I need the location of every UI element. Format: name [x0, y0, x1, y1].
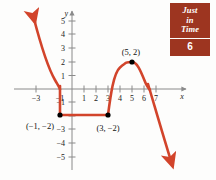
- x-tick-label-4: 4: [118, 94, 122, 103]
- x-tick-label-2: 2: [94, 94, 98, 103]
- point-label-3-neg2: (3, −2): [96, 123, 119, 133]
- jit-line-3: Time: [172, 25, 208, 35]
- x-tick-label-6: 6: [142, 94, 146, 103]
- point-label-neg1-neg2: (−1, −2): [26, 121, 54, 131]
- point-dot-3-neg2: [105, 112, 110, 117]
- y-tick-label-neg3: −3: [56, 125, 65, 134]
- x-tick-label-5: 5: [130, 94, 134, 103]
- y-axis-label: y: [63, 9, 68, 18]
- point-dot-5-2: [129, 59, 134, 64]
- graph-figure: −3 −1 1 2 3 4 5 6 7 5 4 3 2 1 −1 −3 −4 −…: [0, 0, 216, 180]
- y-tick-label-5: 5: [61, 17, 65, 26]
- curve-falling-branch: [148, 84, 171, 161]
- x-tick-label-7: 7: [154, 94, 158, 103]
- y-tick-label-3: 3: [61, 44, 65, 53]
- y-tick-label-neg5: −5: [56, 153, 65, 162]
- y-tick-label-4: 4: [61, 30, 65, 39]
- x-axis-label: x: [179, 92, 184, 101]
- just-in-time-title: Just in Time: [170, 3, 210, 38]
- just-in-time-number: 6: [170, 39, 210, 56]
- y-tick-label-1: 1: [61, 72, 65, 81]
- curve-decreasing-branch: [34, 17, 61, 90]
- just-in-time-badge: Just in Time 6: [170, 3, 210, 56]
- point-label-5-2: (5, 2): [122, 47, 141, 57]
- y-tick-label-2: 2: [61, 58, 65, 67]
- point-dot-neg1-neg2: [57, 112, 62, 117]
- y-tick-label-neg4: −4: [56, 139, 65, 148]
- x-tick-label-neg3: −3: [32, 94, 41, 103]
- x-tick-label-1: 1: [82, 94, 86, 103]
